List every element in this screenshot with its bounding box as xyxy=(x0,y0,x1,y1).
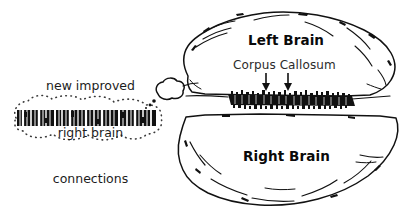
callout-caption-line-2: right brain xyxy=(18,125,163,141)
callout-caption-line-1: new improved xyxy=(18,78,163,94)
callout-caption: new improved right brain connections xyxy=(18,47,163,215)
brain-diagram-figure: new improved right brain connections Lef… xyxy=(0,0,417,215)
right-brain-label: Right Brain xyxy=(243,148,330,164)
down-arrow-icon xyxy=(284,73,292,91)
callout-caption-line-3: connections xyxy=(18,171,163,187)
down-arrow-icon xyxy=(262,73,270,91)
corpus-callosum-arrows xyxy=(262,73,292,91)
corpus-callosum-band xyxy=(186,90,390,109)
left-brain-label: Left Brain xyxy=(248,32,324,48)
corpus-callosum-label: Corpus Callosum xyxy=(233,58,336,72)
